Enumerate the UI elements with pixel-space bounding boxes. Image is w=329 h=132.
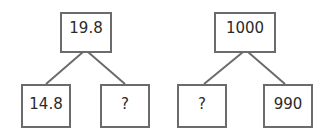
- tree2-root-box: 1000: [214, 12, 276, 53]
- tree2-right-branch: [248, 52, 285, 84]
- tree1-right-branch: [88, 52, 125, 84]
- tree2-left-box: ?: [177, 84, 227, 128]
- tree1-root-box: 19.8: [60, 12, 112, 53]
- tree2-left-branch: [204, 52, 243, 84]
- tree1-right-box: ?: [100, 84, 150, 128]
- tree1-root-value: 19.8: [69, 19, 102, 37]
- tree1-left-branch: [46, 52, 83, 84]
- tree1-left-box: 14.8: [21, 84, 71, 128]
- tree2-root-value: 1000: [226, 19, 264, 37]
- tree2-right-box: 990: [263, 84, 313, 128]
- tree1-left-value: 14.8: [29, 95, 62, 113]
- tree2-right-value: 990: [274, 95, 303, 113]
- tree1-right-value: ?: [121, 95, 129, 113]
- tree2-left-value: ?: [198, 95, 206, 113]
